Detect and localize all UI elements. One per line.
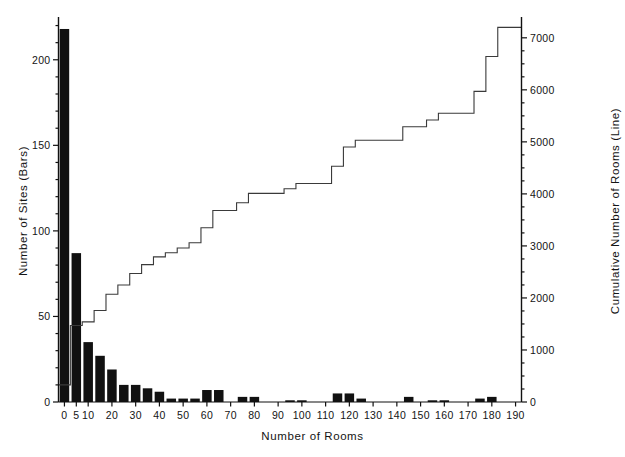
bar xyxy=(95,356,105,402)
y-axis-left-tick-label: 0 xyxy=(44,396,50,408)
axes-group xyxy=(59,17,522,402)
y-axis-right-tick-label: 3000 xyxy=(530,240,555,252)
bar xyxy=(487,397,497,402)
plot-area: 0501001502000100020003000400050006000700… xyxy=(0,0,625,457)
x-axis-tick-label: 120 xyxy=(340,409,358,421)
x-axis-tick-label: 170 xyxy=(459,409,477,421)
bar xyxy=(250,397,260,402)
y-axis-left-tick-label: 100 xyxy=(32,225,50,237)
x-axis-tick-label: 140 xyxy=(388,409,406,421)
y-axis-right-tick-label: 2000 xyxy=(530,292,555,304)
bars-group xyxy=(60,29,497,402)
x-axis-tick-label: 20 xyxy=(106,409,118,421)
bar xyxy=(333,393,343,402)
bar xyxy=(345,393,355,402)
y-axis-left-title: Number of Sites (Bars) xyxy=(17,116,29,306)
bar xyxy=(107,369,117,402)
cumulative-step-line xyxy=(59,27,522,384)
bar xyxy=(83,342,93,402)
bar xyxy=(404,397,414,402)
x-axis-tick-label: 180 xyxy=(483,409,501,421)
y-axis-right-tick-label: 6000 xyxy=(530,84,555,96)
x-axis-tick-label: 160 xyxy=(435,409,453,421)
x-axis-title: Number of Rooms xyxy=(0,430,625,442)
x-axis-tick-label: 40 xyxy=(153,409,165,421)
x-axis-tick-label: 110 xyxy=(317,409,335,421)
y-axis-left-tick-label: 200 xyxy=(32,54,50,66)
x-axis-tick-label: 60 xyxy=(201,409,213,421)
bar xyxy=(72,253,82,402)
y-axis-right-tick-label: 7000 xyxy=(530,32,555,44)
bar xyxy=(238,397,248,402)
x-axis-tick-label: 90 xyxy=(272,409,284,421)
x-axis-tick-label: 100 xyxy=(293,409,311,421)
y-axis-left-tick-label: 50 xyxy=(38,310,50,322)
bar xyxy=(60,29,70,402)
y-axis-right-title: Cumulative Number of Rooms (Line) xyxy=(609,46,621,376)
bar xyxy=(214,390,224,402)
tick-labels-group: 0501001502000100020003000400050006000700… xyxy=(32,26,554,421)
x-axis-tick-label: 130 xyxy=(364,409,382,421)
x-axis-tick-label: 0 xyxy=(61,409,67,421)
x-axis-tick-label: 70 xyxy=(225,409,237,421)
x-axis-tick-label: 150 xyxy=(411,409,429,421)
bar xyxy=(143,388,153,402)
x-axis-tick-label: 30 xyxy=(130,409,142,421)
step-line-path xyxy=(59,27,522,384)
bar xyxy=(119,385,129,402)
y-axis-left-tick-label: 150 xyxy=(32,139,50,151)
y-axis-right-tick-label: 5000 xyxy=(530,136,555,148)
y-axis-right-tick-label: 1000 xyxy=(530,344,555,356)
x-axis-tick-label: 80 xyxy=(248,409,260,421)
bar xyxy=(131,385,141,402)
x-axis-tick-label: 10 xyxy=(82,409,94,421)
bar xyxy=(202,390,212,402)
x-axis-tick-label: 50 xyxy=(177,409,189,421)
bar xyxy=(155,392,165,402)
chart-figure: Number of Sites (Bars) Cumulative Number… xyxy=(0,0,625,457)
y-axis-right-tick-label: 4000 xyxy=(530,188,555,200)
y-axis-right-tick-label: 0 xyxy=(530,396,536,408)
x-axis-tick-label: 5 xyxy=(73,409,79,421)
x-axis-tick-label: 190 xyxy=(506,409,524,421)
